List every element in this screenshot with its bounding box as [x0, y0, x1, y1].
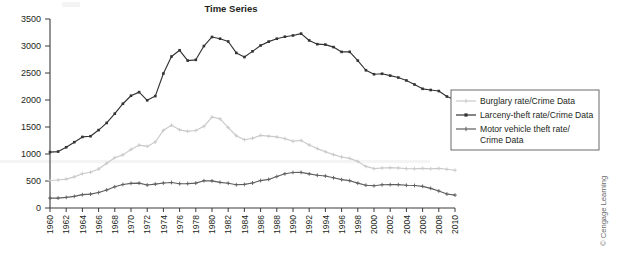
legend-label: Motor vehicle theft rate/: [480, 124, 570, 134]
x-tick-label: 1974: [159, 215, 169, 234]
x-tick-label: 1984: [240, 215, 250, 234]
data-point: [429, 89, 432, 92]
x-tick-label: 1994: [321, 215, 331, 234]
data-point: [73, 141, 76, 144]
x-tick-label: 1976: [175, 215, 185, 234]
x-tick-label: 1978: [191, 215, 201, 234]
data-point: [203, 45, 206, 48]
x-tick-label: 2004: [402, 215, 412, 234]
x-tick-label: 1972: [142, 215, 152, 234]
chart-figure: Time Series 0500100015002000250030003500…: [0, 0, 617, 254]
data-point: [105, 122, 108, 125]
x-tick-label: 1982: [223, 215, 233, 234]
data-point: [81, 136, 84, 139]
data-point: [381, 72, 384, 75]
data-point: [276, 37, 279, 40]
y-tick-label: 3000: [21, 41, 41, 51]
data-point: [292, 34, 295, 37]
data-point: [97, 129, 100, 132]
data-point: [162, 72, 165, 75]
y-tick-label: 1500: [21, 122, 41, 132]
data-point: [300, 32, 303, 35]
y-tick-label: 500: [26, 176, 41, 186]
data-point: [178, 49, 181, 52]
scan-artifact-band: [0, 160, 430, 163]
x-tick-label: 2006: [418, 215, 428, 234]
chart-title: Time Series: [204, 3, 257, 14]
data-point: [446, 95, 449, 98]
data-point: [373, 73, 376, 76]
x-tick-label: 2002: [385, 215, 395, 234]
x-tick-label: 1988: [272, 215, 282, 234]
data-point: [251, 50, 254, 53]
data-point: [348, 51, 351, 54]
data-point: [324, 43, 327, 46]
x-tick-label: 1968: [110, 215, 120, 234]
data-point: [308, 39, 311, 42]
y-tick-label: 1000: [21, 149, 41, 159]
data-point: [332, 46, 335, 49]
y-tick-label: 2000: [21, 95, 41, 105]
data-point: [186, 59, 189, 62]
data-point: [267, 40, 270, 43]
legend-label: Crime Data: [480, 135, 524, 145]
data-point: [138, 91, 141, 94]
data-point: [421, 88, 424, 91]
y-tick-label: 3500: [21, 14, 41, 24]
data-point: [365, 69, 368, 72]
data-point: [413, 83, 416, 86]
x-tick-label: 2010: [450, 215, 460, 234]
x-tick-label: 2008: [434, 215, 444, 234]
data-point: [405, 79, 408, 82]
data-point: [235, 52, 238, 55]
data-point: [340, 51, 343, 54]
y-tick-label: 0: [36, 203, 41, 213]
legend-swatch-marker: [464, 113, 467, 116]
y-tick-label: 2500: [21, 68, 41, 78]
data-point: [154, 95, 157, 98]
data-point: [170, 55, 173, 58]
legend: Burglary rate/Crime DataLarceny-theft ra…: [451, 90, 599, 150]
data-point: [357, 59, 360, 62]
data-point: [89, 135, 92, 138]
data-point: [316, 43, 319, 46]
data-point: [65, 146, 68, 149]
x-tick-label: 1998: [353, 215, 363, 234]
data-point: [122, 102, 125, 105]
data-point: [259, 44, 262, 47]
x-tick-label: 1960: [45, 215, 55, 234]
copyright-credit: © Cengage Learning: [599, 176, 608, 246]
x-tick-label: 1992: [304, 215, 314, 234]
data-point: [211, 36, 214, 39]
data-point: [114, 112, 117, 115]
x-tick-label: 1964: [78, 215, 88, 234]
legend-label: Burglary rate/Crime Data: [480, 96, 575, 106]
data-point: [49, 151, 52, 154]
x-tick-label: 1996: [337, 215, 347, 234]
data-point: [195, 59, 198, 62]
data-point: [284, 35, 287, 38]
data-point: [130, 94, 133, 97]
x-tick-label: 1986: [256, 215, 266, 234]
data-point: [438, 90, 441, 93]
x-tick-label: 2000: [369, 215, 379, 234]
data-point: [57, 150, 60, 153]
x-tick-label: 1980: [207, 215, 217, 234]
data-point: [243, 56, 246, 59]
data-point: [227, 40, 230, 43]
x-tick-label: 1990: [288, 215, 298, 234]
legend-label: Larceny-theft rate/Crime Data: [480, 110, 593, 120]
data-point: [397, 76, 400, 79]
data-point: [389, 74, 392, 77]
data-point: [146, 99, 149, 102]
x-tick-label: 1966: [94, 215, 104, 234]
scan-artifact: [62, 2, 80, 7]
x-tick-label: 1970: [126, 215, 136, 234]
time-series-chart: Time Series 0500100015002000250030003500…: [0, 0, 617, 254]
x-tick-label: 1962: [61, 215, 71, 234]
data-point: [219, 37, 222, 40]
